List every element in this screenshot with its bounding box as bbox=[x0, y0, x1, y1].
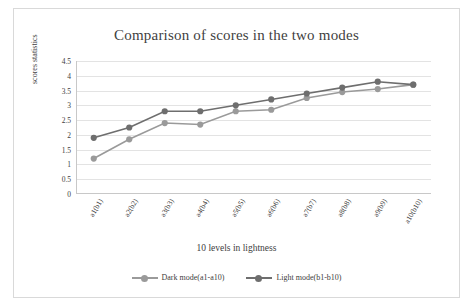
data-point bbox=[91, 155, 97, 161]
data-point bbox=[233, 102, 239, 108]
y-tick-label: 1 bbox=[67, 160, 71, 169]
x-tick-label: a5(b5) bbox=[229, 197, 247, 218]
x-tick-label: a6(b6) bbox=[264, 197, 282, 218]
data-point bbox=[339, 85, 345, 91]
data-point bbox=[304, 90, 310, 96]
y-tick-label: 2.5 bbox=[62, 116, 71, 125]
y-axis-label: scores statistics bbox=[30, 34, 39, 84]
y-tick-label: 3.5 bbox=[62, 86, 71, 95]
x-tick-label: a4(b4) bbox=[193, 197, 211, 218]
y-tick-label: 4 bbox=[67, 71, 71, 80]
data-point bbox=[91, 135, 97, 141]
x-tick-label: a2(b2) bbox=[122, 197, 140, 218]
y-tick-label: 0 bbox=[67, 190, 71, 199]
legend-label-light-mode: Light mode(b1-b10) bbox=[276, 273, 341, 282]
legend-marker-dark-mode bbox=[132, 274, 158, 282]
data-point bbox=[375, 86, 381, 92]
x-tick-label: a9(b9) bbox=[371, 197, 389, 218]
data-point bbox=[126, 124, 132, 130]
legend-marker-light-mode bbox=[246, 274, 272, 282]
data-point bbox=[268, 96, 274, 102]
x-tick-label: a10(b10) bbox=[403, 197, 424, 225]
y-tick-label: 3 bbox=[67, 101, 71, 110]
data-point bbox=[268, 107, 274, 113]
chart-card: Comparison of scores in the two modes sc… bbox=[13, 8, 460, 298]
data-point bbox=[162, 120, 168, 126]
y-tick-label: 4.5 bbox=[62, 57, 71, 66]
data-point bbox=[233, 108, 239, 114]
x-tick-label: a7(b7) bbox=[300, 197, 318, 218]
data-point bbox=[126, 136, 132, 142]
x-axis-label: 10 levels in lightness bbox=[14, 243, 459, 253]
y-tick-label: 1.5 bbox=[62, 145, 71, 154]
legend-entry-dark-mode: Dark mode(a1-a10) bbox=[132, 273, 225, 282]
y-tick-label: 2 bbox=[67, 130, 71, 139]
series-plot bbox=[76, 61, 431, 194]
data-point bbox=[197, 108, 203, 114]
legend: Dark mode(a1-a10) Light mode(b1-b10) bbox=[14, 273, 459, 282]
x-tick-label: a8(b8) bbox=[335, 197, 353, 218]
x-tick-label: a1(b1) bbox=[87, 197, 105, 218]
data-point bbox=[410, 82, 416, 88]
plot-area: 00.511.522.533.544.5 a1(b1)a2(b2)a3(b3)a… bbox=[76, 61, 431, 194]
chart-title: Comparison of scores in the two modes bbox=[14, 27, 459, 44]
x-tick-label: a3(b3) bbox=[158, 197, 176, 218]
y-tick-label: 0.5 bbox=[62, 175, 71, 184]
data-point bbox=[375, 79, 381, 85]
data-point bbox=[197, 121, 203, 127]
data-point bbox=[162, 108, 168, 114]
legend-label-dark-mode: Dark mode(a1-a10) bbox=[162, 273, 225, 282]
legend-entry-light-mode: Light mode(b1-b10) bbox=[246, 273, 341, 282]
